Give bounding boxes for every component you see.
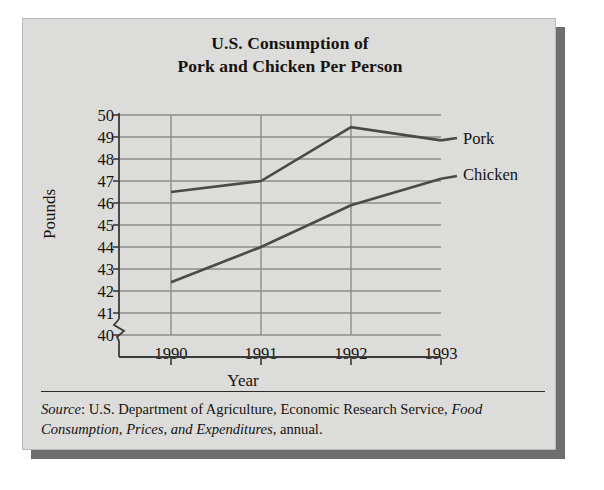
source-label: Source [41,401,81,417]
plot-area: Pounds 50 49 48 47 46 45 44 43 42 41 40 … [23,19,557,451]
y-axis-break-icon [114,319,124,341]
horizontal-gridlines [119,115,441,335]
source-divider [41,391,545,392]
source-text-part-2: , annual. [273,421,323,437]
leader-line-chicken [441,176,457,179]
chart-panel: U.S. Consumption of Pork and Chicken Per… [22,18,556,450]
plot-svg [23,19,557,451]
series-line-chicken [171,179,441,282]
source-text-part-1: U.S. Department of Agriculture, Economic… [85,401,451,417]
leader-line-pork [441,138,457,140]
figure-root: U.S. Consumption of Pork and Chicken Per… [0,0,604,490]
source-note: Source: U.S. Department of Agriculture, … [41,400,545,439]
x-tick-marks [171,357,441,365]
